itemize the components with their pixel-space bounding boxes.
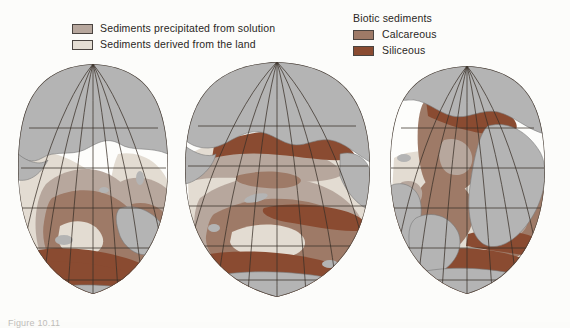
legend-label-terrigenous: Sediments derived from the land: [100, 39, 256, 50]
legend-item-precipitated: Sediments precipitated from solution: [72, 22, 275, 35]
legend-heading-biotic: Biotic sediments: [353, 13, 437, 24]
legend-column-abiotic: Sediments precipitated from solution Sed…: [72, 22, 275, 54]
swatch-precipitated-icon: [72, 24, 93, 34]
world-sediment-map: [0, 58, 570, 308]
legend-item-calcareous: Calcareous: [353, 28, 437, 41]
legend-label-calcareous: Calcareous: [382, 29, 437, 40]
map-legend: Sediments precipitated from solution Sed…: [0, 0, 570, 62]
figure-caption: Figure 10.11: [8, 318, 60, 328]
legend-item-siliceous: Siliceous: [353, 44, 437, 57]
legend-label-siliceous: Siliceous: [382, 45, 425, 56]
map-svg: [0, 58, 570, 308]
swatch-terrigenous-icon: [72, 40, 93, 50]
swatch-calcareous-icon: [353, 30, 374, 40]
legend-column-biotic: Biotic sediments Calcareous Siliceous: [353, 13, 437, 60]
legend-label-precipitated: Sediments precipitated from solution: [100, 23, 275, 34]
legend-item-terrigenous: Sediments derived from the land: [72, 38, 275, 51]
swatch-siliceous-icon: [353, 46, 374, 56]
